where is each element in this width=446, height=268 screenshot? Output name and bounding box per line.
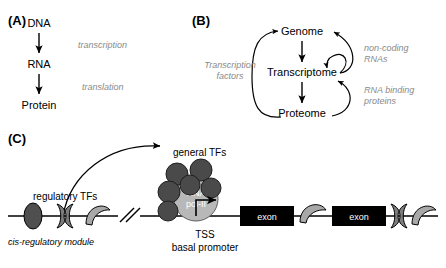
panel-b-node-proteome: Proteome (278, 107, 326, 119)
panel-c: (C) regulatory TFs cis-regulatory module… (8, 131, 438, 253)
general-tf-circle-4 (158, 181, 180, 203)
general-tf-circle-6 (158, 201, 178, 221)
panel-b-node-genome: Genome (281, 25, 323, 37)
panel-a: (A) DNA RNA Protein transcription transl… (8, 13, 127, 111)
intron-crescent-1 (300, 205, 326, 223)
panel-b-label-noncoding-rnas-line1: non-coding (364, 43, 409, 53)
panel-b-label: (B) (192, 13, 210, 28)
panel-b-label-transcription-factors-line2: factors (216, 71, 244, 81)
panel-c-label: (C) (8, 131, 26, 146)
basal-promoter-label: basal promoter (172, 242, 239, 253)
panel-a-label-translation: translation (82, 82, 124, 92)
exon-label-2: exon (349, 212, 369, 222)
panel-a-node-dna: DNA (27, 17, 51, 29)
general-tfs-label: general TFs (173, 147, 226, 158)
dna-break-slash-2 (126, 208, 140, 222)
tss-label: TSS (195, 229, 215, 240)
figure-canvas: (A) DNA RNA Protein transcription transl… (0, 0, 446, 268)
panel-b-label-rna-binding-proteins-line2: proteins (363, 96, 397, 106)
general-tf-circle-5 (201, 178, 221, 198)
panel-a-node-rna: RNA (27, 58, 51, 70)
regulatory-tf-ellipse (24, 203, 42, 229)
exon-label-1: exon (257, 212, 277, 222)
cis-regulatory-module-label: cis-regulatory module (8, 237, 94, 247)
panel-b-label-noncoding-rnas-line2: RNAs (364, 54, 388, 64)
panel-b-label-transcription-factors-line1: Transcription (204, 60, 255, 70)
panel-a-node-protein: Protein (22, 99, 57, 111)
panel-b: (B) Genome Transcriptome Proteome Transc… (192, 13, 414, 119)
recruitment-arrow (63, 146, 160, 216)
panel-b-label-rna-binding-proteins-line1: RNA binding (364, 85, 414, 95)
panel-b-arrow-rna-binding-proteins (332, 81, 350, 116)
panel-a-label: (A) (8, 13, 26, 28)
panel-a-label-transcription: transcription (78, 40, 127, 50)
regulatory-tfs-label: regulatory TFs (33, 191, 97, 202)
dna-break-slash-1 (120, 208, 134, 222)
general-tf-circle-3 (180, 175, 200, 195)
